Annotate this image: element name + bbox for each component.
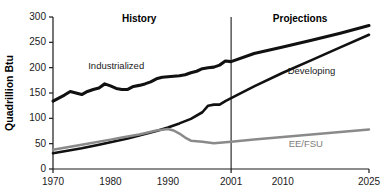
y-tick-label-300: 300 bbox=[29, 11, 46, 22]
chart-canvas: 050100150200250300 197019801990200120102… bbox=[0, 0, 385, 196]
x-tick-label-2025: 2025 bbox=[358, 176, 381, 187]
history-region-label: History bbox=[122, 13, 157, 24]
projections-region-label: Projections bbox=[273, 13, 328, 24]
x-tick-label-1980: 1980 bbox=[99, 176, 122, 187]
y-tick-label-100: 100 bbox=[29, 112, 46, 123]
y-tick-label-50: 50 bbox=[35, 138, 47, 149]
series-label-industrialized: Industrialized bbox=[88, 60, 144, 71]
y-tick-label-0: 0 bbox=[40, 163, 46, 174]
x-axis-ticks: 197019801990200120102025 bbox=[42, 169, 381, 187]
x-tick-label-1990: 1990 bbox=[157, 176, 180, 187]
x-tick-label-1970: 1970 bbox=[42, 176, 65, 187]
energy-consumption-chart: 050100150200250300 197019801990200120102… bbox=[0, 0, 385, 196]
y-tick-label-150: 150 bbox=[29, 87, 46, 98]
y-tick-label-200: 200 bbox=[29, 62, 46, 73]
series-line-developing bbox=[53, 35, 369, 154]
series-label-eefsu: EE/FSU bbox=[289, 138, 323, 149]
x-tick-label-2010: 2010 bbox=[272, 176, 295, 187]
x-tick-label-2001: 2001 bbox=[220, 176, 243, 187]
y-axis-title: Quadrillion Btu bbox=[3, 55, 15, 131]
y-axis-ticks: 050100150200250300 bbox=[29, 11, 53, 174]
series-label-developing: Developing bbox=[288, 65, 336, 76]
y-tick-label-250: 250 bbox=[29, 36, 46, 47]
